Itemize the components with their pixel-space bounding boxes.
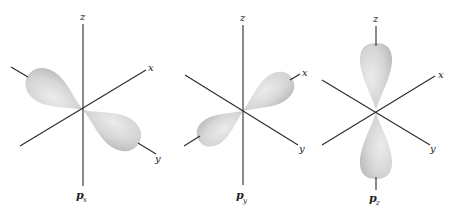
px-y-label: y — [154, 153, 161, 164]
px-lobe-lower-right — [74, 95, 147, 158]
py-orbital-subscript: y — [242, 197, 248, 205]
py-x-label: x — [302, 67, 308, 78]
py-lobe-lower-left — [191, 99, 251, 152]
pz-lobe-bottom — [360, 112, 392, 179]
py-lobe-axis-stub-left — [184, 136, 200, 146]
px-lobe-upper-left — [19, 61, 92, 124]
px-z-label: z — [79, 11, 86, 22]
pz-x-label: x — [438, 69, 444, 80]
pz-lobe-top — [360, 43, 392, 110]
pz-orbital-subscript: z — [375, 199, 380, 207]
pz-z-label: z — [372, 13, 379, 24]
p-orbitals-diagram: z x y p x z x y p y z x — [0, 0, 449, 211]
px-lobe-axis-stub-right — [138, 143, 156, 154]
py-z-label: z — [239, 12, 246, 23]
px-orbital-subscript: x — [83, 196, 87, 204]
pz-panel: z x y p z — [322, 13, 444, 207]
py-panel: z x y p y — [184, 12, 308, 205]
pz-y-label: y — [429, 143, 436, 154]
py-y-label: y — [298, 143, 305, 154]
px-lobe-axis-stub-left — [11, 67, 28, 77]
px-x-label: x — [148, 62, 154, 73]
py-lobe-upper-right — [235, 66, 301, 124]
px-panel: z x y p x — [11, 11, 161, 204]
py-lobe-axis-stub-right — [290, 74, 300, 80]
